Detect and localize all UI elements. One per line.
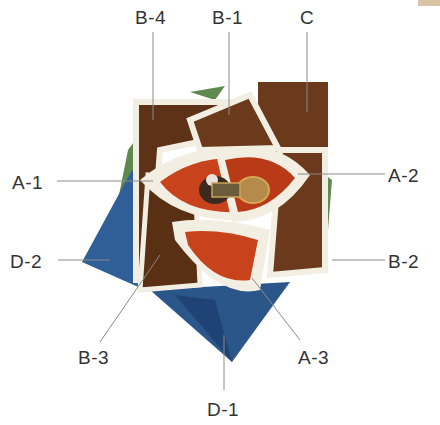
label-b2: B-2 — [388, 252, 419, 271]
label-a3: A-3 — [298, 348, 329, 367]
bead-cylinder — [212, 183, 240, 197]
bead-gold — [237, 177, 269, 203]
corner-mark — [418, 0, 440, 6]
flower-illustration — [0, 0, 440, 425]
label-b4: B-4 — [135, 8, 166, 27]
label-b1: B-1 — [212, 8, 243, 27]
label-a1: A-1 — [12, 173, 43, 192]
label-c: C — [300, 8, 314, 27]
flower-diagram: B-4 B-1 C A-1 A-2 D-2 B-2 B-3 A-3 D-1 — [0, 0, 440, 425]
label-a2: A-2 — [388, 166, 419, 185]
label-d1: D-1 — [207, 400, 239, 419]
green-leaf-top — [190, 86, 225, 100]
label-b3: B-3 — [78, 348, 109, 367]
label-d2: D-2 — [10, 252, 42, 271]
